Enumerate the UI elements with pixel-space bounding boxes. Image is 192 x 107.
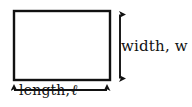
- length-dimension-label: length,ℓ: [19, 83, 79, 98]
- length-symbol-ell: ℓ: [70, 81, 78, 99]
- rectangle-shape: [14, 11, 110, 80]
- width-dimension-label: width, w: [121, 39, 188, 54]
- length-label-prefix: length,: [19, 82, 70, 98]
- rectangle-dimensions-figure: width, w length,ℓ: [0, 0, 192, 107]
